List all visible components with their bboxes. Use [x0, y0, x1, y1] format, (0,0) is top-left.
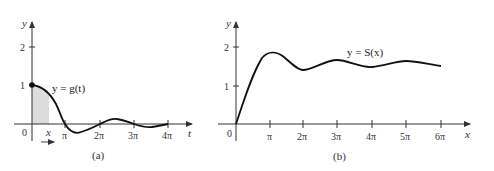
x-tick-label-3pi: 3π	[128, 130, 138, 141]
origin-label: 0	[22, 127, 27, 138]
x-marker-label: x	[45, 126, 51, 138]
x-axis-label: x	[464, 128, 470, 140]
x-tick-label-6pi: 6π	[435, 131, 445, 142]
x-tick-label-2pi: 2π	[297, 131, 307, 142]
x-tick-label-4pi: 4π	[162, 130, 172, 141]
caption-b: (b)	[333, 150, 346, 163]
y-axis-label: y	[225, 17, 231, 29]
origin-label: 0	[227, 128, 232, 139]
caption-a: (a)	[92, 149, 105, 162]
y-tick-label-2: 2	[20, 42, 25, 53]
y-tick-label-1: 1	[224, 81, 229, 92]
y-tick-label-1: 1	[20, 80, 25, 91]
curve-label-g: y = g(t)	[52, 82, 85, 95]
y-axis-label: y	[21, 17, 27, 29]
x-tick-label-3pi: 3π	[331, 131, 341, 142]
x-tick-label-pi: π	[267, 131, 272, 142]
chart-b: y x 0 1 2 π 2π 3π 4π 5π 6π y = S(x) (b)	[218, 17, 470, 163]
x-tick-label-pi: π	[62, 130, 67, 141]
figure: y t 0 1 2 π 2π 3π 4π y = g(t) x (a) y x …	[0, 0, 494, 171]
y-tick-label-2: 2	[224, 42, 229, 53]
x-tick-label-4pi: 4π	[366, 131, 376, 142]
x-tick-label-2pi: 2π	[94, 130, 104, 141]
start-point	[29, 82, 35, 88]
x-tick-label-5pi: 5π	[400, 131, 410, 142]
curve-S	[236, 53, 441, 124]
chart-a: y t 0 1 2 π 2π 3π 4π y = g(t) x (a)	[14, 17, 192, 162]
curve-label-S: y = S(x)	[347, 46, 383, 59]
x-axis-label: t	[188, 127, 192, 139]
